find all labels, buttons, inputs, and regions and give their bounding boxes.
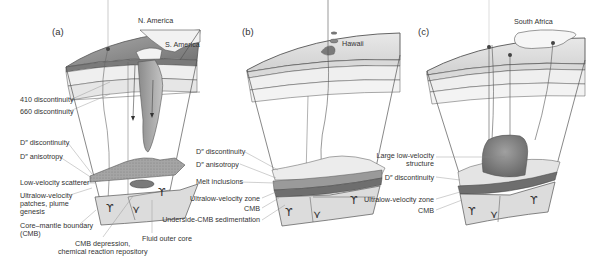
callout-c-ulvz: Ultralow-velocity zone: [360, 196, 434, 204]
callout-410-discontinuity: 410 discontinuity: [20, 96, 74, 104]
svg-text:ϒ: ϒ: [285, 206, 293, 219]
callout-melt-inclusions: Melt inclusions: [196, 178, 243, 186]
map-label-north-america: N. America: [138, 17, 173, 25]
callout-fluid-outer-core: Fluid outer core: [142, 235, 192, 243]
svg-text:ϒ: ϒ: [530, 194, 538, 207]
callout-d-anisotropy: D″ anisotropy: [20, 153, 63, 161]
callout-llvs-line2: structure: [370, 160, 434, 168]
callout-b-ulvz: Ultralow-velocity zone: [190, 195, 260, 203]
callout-b-d-discontinuity: D″ discontinuity: [196, 148, 245, 156]
svg-text:⋎: ⋎: [490, 208, 498, 221]
panel-b-art: ϒ ⋎ ϒ: [240, 0, 400, 226]
panel-c-label: (c): [418, 26, 429, 37]
callout-b-d-anisotropy: D″ anisotropy: [196, 161, 239, 169]
panel-a-art: ϒ ⋎ ϒ: [60, 0, 200, 237]
svg-text:ϒ: ϒ: [350, 194, 358, 207]
map-label-hawaii: Hawaii: [342, 40, 364, 48]
svg-text:ϒ: ϒ: [106, 202, 114, 215]
svg-text:ϒ: ϒ: [468, 205, 476, 218]
svg-text:⋎: ⋎: [313, 208, 321, 221]
callout-d-discontinuity: D″ discontinuity: [20, 139, 69, 147]
panel-c-art: ϒ ⋎ ϒ: [427, 0, 585, 225]
figure-stage: ϒ ⋎ ϒ ϒ ⋎: [0, 0, 603, 266]
panel-b-label: (b): [242, 26, 254, 37]
callout-cmb-depression-line2: chemical reaction repository: [58, 248, 147, 256]
svg-text:⋎: ⋎: [132, 203, 140, 216]
map-label-south-america: S. America: [165, 41, 200, 49]
callout-c-cmb: CMB: [370, 207, 434, 215]
callout-low-velocity-scatterer: Low-velocity scatterer: [20, 179, 90, 187]
callout-b-cmb: CMB: [190, 205, 260, 213]
callout-ulvz-line3: genesis: [20, 208, 45, 216]
svg-text:ϒ: ϒ: [158, 186, 166, 199]
callout-660-discontinuity: 660 discontinuity: [20, 108, 74, 116]
callout-underside-cmb-sedimentation: Underside-CMB sedimentation: [160, 216, 260, 224]
callout-c-d-discontinuity: D″ discontinuity: [370, 174, 434, 182]
panel-a-label: (a): [52, 26, 64, 37]
callout-cmb-line2: (CMB): [20, 230, 41, 238]
map-label-south-africa: South Africa: [514, 18, 553, 26]
